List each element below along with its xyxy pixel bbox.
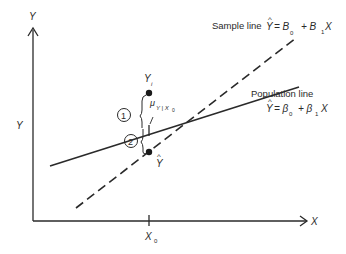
yi-point	[146, 90, 152, 96]
x0-label: X	[144, 231, 152, 242]
pop-eq-sub0: 0	[289, 111, 293, 117]
sample-eq-lhs: Y	[266, 21, 274, 32]
brace-1	[140, 95, 146, 128]
y-axis-label-side: Y	[16, 120, 24, 131]
pop-eq-mid: = β	[274, 103, 289, 114]
pop-eq-lhs: Y	[266, 103, 274, 114]
pop-eq-tail: X	[320, 103, 328, 114]
sample-eq-mid: = B	[274, 21, 290, 32]
regression-diagram: Y Y X X 0 Sample line ^ Y = B 0 + B 1 X …	[0, 0, 346, 254]
yhat-point	[146, 149, 152, 155]
brace-2	[141, 129, 146, 154]
sample-line-label: Sample line	[212, 20, 262, 31]
mu-label: μ	[149, 98, 155, 108]
x0-subscript: 0	[154, 238, 158, 244]
sample-eq-sub0: 0	[290, 30, 294, 36]
yi-subscript: i	[151, 81, 153, 87]
sample-eq-plus: + B	[301, 21, 317, 32]
pop-eq-plus: + β	[298, 103, 313, 114]
sample-eq-tail: X	[324, 21, 332, 32]
circle-marker-2-label: 2	[128, 137, 133, 147]
y-axis-label-top: Y	[29, 11, 37, 22]
pop-eq-sub1: 1	[315, 111, 319, 117]
circle-marker-1-label: 1	[121, 111, 126, 121]
x-axis-label: X	[310, 216, 318, 227]
mu-pointer	[150, 117, 153, 124]
mu-subscript-0: 0	[172, 107, 175, 113]
population-line-label: Population line	[251, 88, 313, 99]
yhat-label: Y	[156, 158, 164, 169]
mu-subscript: Y | X	[156, 105, 170, 111]
